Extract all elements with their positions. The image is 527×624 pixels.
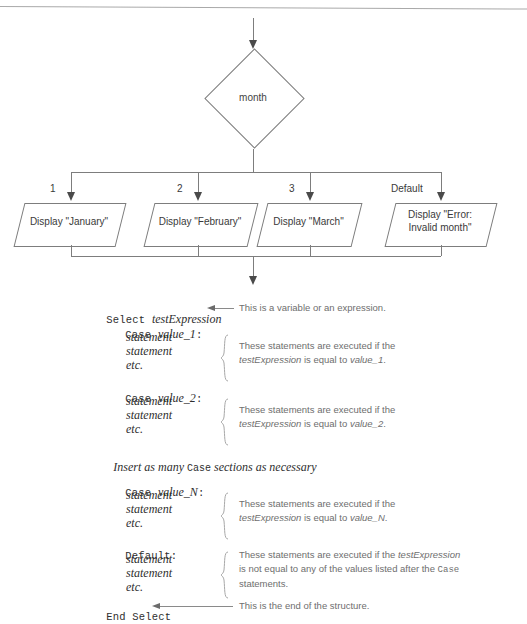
brace-default [220,551,230,599]
merge-stem-2 [198,245,199,256]
process-label-january: Display "January" [16,216,122,229]
annotation-case-n-testexpression: testExpression [239,512,301,523]
annotation-case-n-value: value_N [350,512,385,523]
insert-note-prefix: Insert as many [113,460,187,474]
code-line-stmt-1a: statement [126,330,172,345]
code-line-etc-2: etc. [126,422,143,437]
branch-drop-1 [71,172,72,194]
merge-stem-3 [310,245,311,256]
branch-arrowhead-1 [67,192,75,201]
select-leader-line [215,308,234,309]
end-leader-arrowhead [152,603,160,609]
branch-arrowhead-3 [306,192,314,201]
branch-bus [71,172,441,173]
brace-case-n [220,492,230,540]
annotation-end-select: This is the end of the structure. [239,599,509,613]
code-punct-n: : [198,487,205,499]
code-line-stmt-na: statement [126,488,172,503]
annotation-case-2-value: value_2 [350,418,383,429]
merge-bus [71,256,441,257]
annotation-default: These statements are executed if the tes… [239,548,524,591]
annotation-case-1-value: value_1 [350,354,383,365]
code-line-stmt-1b: statement [126,344,172,359]
process-label-default: Display "Error: Invalid month" [387,209,493,234]
code-line-etc-1: etc. [126,358,143,373]
entry-arrowhead [249,40,257,49]
process-label-february: Display "February" [146,216,254,229]
exit-arrowhead [249,276,257,285]
end-leader-line [160,606,233,607]
annotation-case-n: These statements are executed if the tes… [239,497,519,525]
code-punct-2: : [196,393,203,405]
code-line-stmt-2b: statement [126,408,172,423]
decision-label: month [213,92,293,103]
annotation-case-1-end: . [383,354,386,365]
annotation-default-line1a: These statements are executed if the [239,549,398,560]
branch-label-1: 1 [50,183,56,194]
annotation-case-n-line1: These statements are executed if the [239,498,395,509]
annotation-case-n-end: . [385,512,388,523]
branch-drop-2 [198,172,199,194]
code-line-stmt-2a: statement [126,394,172,409]
branch-label-4: Default [391,183,423,194]
merge-stem-4 [441,245,442,256]
code-line-etc-n: etc. [126,516,143,531]
code-line-stmt-db: statement [126,566,172,581]
branch-drop-4 [441,172,442,194]
annotation-case-1: These statements are executed if the tes… [239,339,519,367]
annotation-select: This is a variable or an expression. [239,301,509,315]
annotation-default-line3: statements. [239,578,288,589]
annotation-case-2-end: . [383,418,386,429]
process-label-march: Display "March" [259,216,358,229]
brace-case-1 [220,334,230,382]
merge-stem-1 [71,245,72,256]
code-line-stmt-nb: statement [126,502,172,517]
code-line-end-select: End Select [88,598,171,624]
entry-connector [253,18,254,42]
annotation-case-2-mid: is equal to [301,418,350,429]
annotation-default-testexpression: testExpression [398,549,460,560]
branch-label-2: 2 [177,183,183,194]
branch-label-3: 3 [289,183,295,194]
branch-drop-3 [310,172,311,194]
annotation-case-2: These statements are executed if the tes… [239,403,519,431]
brace-case-2 [220,398,230,446]
annotation-case-2-line1: These statements are executed if the [239,404,395,415]
select-leader-arrowhead [207,305,215,311]
branch-arrowhead-4 [437,192,445,201]
annotation-case-1-mid: is equal to [301,354,350,365]
annotation-case-2-testexpression: testExpression [239,418,301,429]
annotation-case-n-mid: is equal to [301,512,350,523]
code-line-etc-d: etc. [126,580,143,595]
branch-arrowhead-2 [194,192,202,201]
annotation-case-1-testexpression: testExpression [239,354,301,365]
annotation-case-1-line1: These statements are executed if the [239,340,395,351]
annotation-default-line2a: is not equal to any of the values listed… [239,563,438,574]
page-top-rule [0,6,527,10]
decision-exit-connector [253,149,254,172]
code-punct-1: : [196,329,203,341]
code-line-stmt-da: statement [126,552,172,567]
code-keyword-end-select: End Select [106,611,171,623]
insert-note-suffix: sections as necessary [211,460,317,474]
annotation-default-case-keyword: Case [438,565,460,575]
